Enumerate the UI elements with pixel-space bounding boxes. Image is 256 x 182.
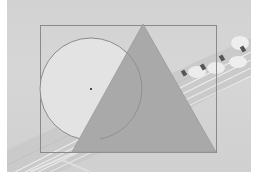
image-canvas [0, 0, 256, 182]
circle-center-point [90, 88, 92, 90]
overlay-shapes [0, 0, 256, 182]
